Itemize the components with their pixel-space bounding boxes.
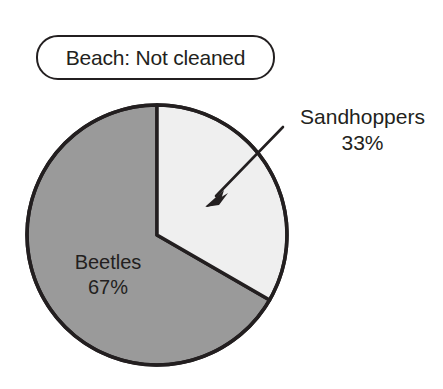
callout-label-percent: 33% [285, 130, 440, 156]
slice-label-beetles: Beetles 67% [43, 250, 173, 300]
callout-label-sandhoppers: Sandhoppers 33% [285, 104, 440, 156]
slice-label-percent: 67% [43, 275, 173, 300]
slice-label-name: Beetles [75, 251, 142, 273]
pie-graphic [0, 0, 443, 389]
callout-label-name: Sandhoppers [300, 105, 425, 128]
pie-chart-figure: Beach: Not cleaned Sandhoppers 33% Beetl… [0, 0, 443, 389]
